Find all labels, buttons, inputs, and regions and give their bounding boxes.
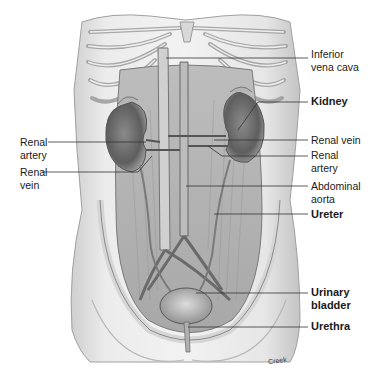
- label-urinary-bladder: Urinary bladder: [311, 286, 351, 312]
- abdominal-aorta: [180, 62, 188, 236]
- label-abdominal-aorta: Abdominal aorta: [311, 180, 361, 206]
- label-ureter: Ureter: [311, 208, 343, 221]
- label-renal-vein-right: Renal vein: [311, 134, 361, 147]
- label-urethra: Urethra: [311, 320, 350, 333]
- label-renal-vein-left: Renal vein: [20, 166, 47, 192]
- label-kidney: Kidney: [311, 95, 348, 108]
- label-inferior-vena-cava: Inferior vena cava: [311, 48, 359, 74]
- anatomy-diagram: Inferior vena cava Kidney Renal vein Ren…: [0, 0, 373, 386]
- label-renal-artery-left: Renal artery: [20, 136, 47, 162]
- label-renal-artery-right: Renal artery: [311, 149, 338, 175]
